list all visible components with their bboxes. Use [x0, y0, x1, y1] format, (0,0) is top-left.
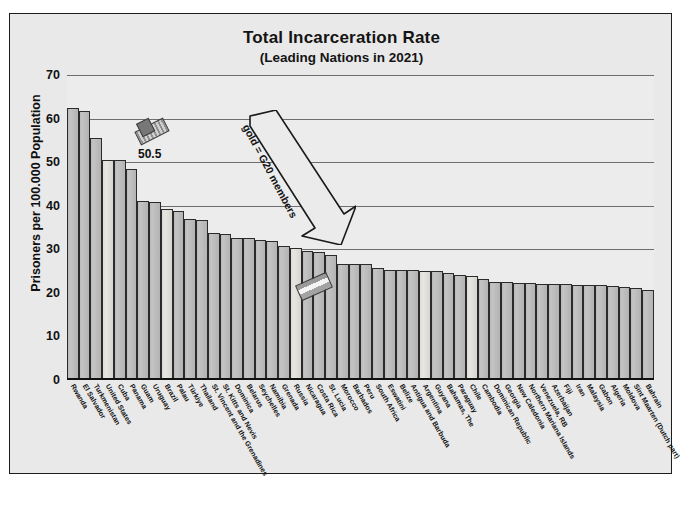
bar-slot[interactable]: [102, 75, 114, 380]
bar[interactable]: [231, 238, 243, 380]
bar[interactable]: [595, 285, 607, 380]
y-axis-tick-label: 40: [46, 199, 60, 213]
bar[interactable]: [161, 209, 173, 380]
y-axis-tick-label: 0: [53, 373, 60, 387]
bar-slot[interactable]: [79, 75, 91, 380]
bar-slot[interactable]: [114, 75, 126, 380]
data-label-united-states: 50.5: [138, 147, 161, 161]
bar-slot[interactable]: [220, 75, 232, 380]
bar-slot[interactable]: [407, 75, 419, 380]
bar[interactable]: [337, 264, 349, 380]
bar[interactable]: [173, 211, 185, 380]
bar[interactable]: [642, 290, 654, 380]
y-axis-tick-label: 10: [46, 329, 60, 343]
y-axis-tick-label: 70: [46, 68, 60, 82]
bar[interactable]: [266, 241, 278, 380]
bar-slot[interactable]: [595, 75, 607, 380]
bar[interactable]: [255, 240, 267, 380]
bar[interactable]: [196, 220, 208, 380]
bar-slot[interactable]: [489, 75, 501, 380]
x-axis-tick-labels: RwandaEl SalvadorTurkmenistanUnited Stat…: [67, 382, 654, 512]
bar-slot[interactable]: [419, 75, 431, 380]
chart-title-block: Total Incarceration Rate (Leading Nation…: [10, 28, 673, 65]
bar[interactable]: [560, 284, 572, 380]
bar-slot[interactable]: [619, 75, 631, 380]
bar-slot[interactable]: [196, 75, 208, 380]
bar-slot[interactable]: [583, 75, 595, 380]
bar-slot[interactable]: [466, 75, 478, 380]
bar[interactable]: [360, 264, 372, 380]
bar[interactable]: [149, 202, 161, 380]
bar[interactable]: [372, 268, 384, 380]
bar-slot[interactable]: [372, 75, 384, 380]
bar[interactable]: [243, 238, 255, 380]
bar[interactable]: [220, 234, 232, 380]
bar[interactable]: [102, 160, 114, 380]
bar[interactable]: [137, 201, 149, 380]
bar-slot[interactable]: [384, 75, 396, 380]
bar-slot[interactable]: [396, 75, 408, 380]
bar[interactable]: [513, 283, 525, 380]
bar-slot[interactable]: [184, 75, 196, 380]
bar-slot[interactable]: [642, 75, 654, 380]
bar-slot[interactable]: [208, 75, 220, 380]
bar[interactable]: [619, 287, 631, 380]
bar-slot[interactable]: [478, 75, 490, 380]
bar[interactable]: [79, 111, 91, 380]
bar-slot[interactable]: [630, 75, 642, 380]
x-axis-tick-label: Iran: [573, 383, 586, 398]
bar-slot[interactable]: [513, 75, 525, 380]
bar[interactable]: [572, 285, 584, 380]
bar[interactable]: [630, 288, 642, 380]
bar-slot[interactable]: [126, 75, 138, 380]
bar-slot[interactable]: [501, 75, 513, 380]
page-title: Total Incarceration Rate: [10, 28, 673, 48]
bar[interactable]: [126, 169, 138, 380]
g20-arrow-icon: [246, 110, 356, 245]
bar[interactable]: [114, 160, 126, 380]
bar[interactable]: [489, 282, 501, 380]
bar-slot[interactable]: [454, 75, 466, 380]
bar[interactable]: [90, 138, 102, 380]
bar-slot[interactable]: [572, 75, 584, 380]
bar[interactable]: [583, 285, 595, 380]
bar[interactable]: [431, 271, 443, 380]
bar[interactable]: [525, 283, 537, 380]
bar[interactable]: [501, 282, 513, 380]
bar-slot[interactable]: [431, 75, 443, 380]
bar-slot[interactable]: [443, 75, 455, 380]
bar[interactable]: [454, 275, 466, 380]
bar[interactable]: [278, 246, 290, 380]
bar[interactable]: [208, 233, 220, 380]
bar-slot[interactable]: [607, 75, 619, 380]
bar[interactable]: [349, 264, 361, 380]
bar[interactable]: [478, 279, 490, 380]
bar[interactable]: [67, 108, 79, 380]
chart-frame: Total Incarceration Rate (Leading Nation…: [9, 13, 672, 474]
bar-slot[interactable]: [173, 75, 185, 380]
bar[interactable]: [396, 270, 408, 380]
bar[interactable]: [419, 271, 431, 380]
bar[interactable]: [290, 248, 302, 380]
bar[interactable]: [607, 286, 619, 380]
y-axis-tick-label: 20: [46, 286, 60, 300]
bar-slot[interactable]: [90, 75, 102, 380]
bar[interactable]: [302, 251, 314, 380]
bar-slot[interactable]: [525, 75, 537, 380]
bar-slot[interactable]: [67, 75, 79, 380]
bar-slot[interactable]: [360, 75, 372, 380]
bar[interactable]: [384, 270, 396, 380]
y-axis-tick-label: 30: [46, 242, 60, 256]
chart-subtitle: (Leading Nations in 2021): [10, 50, 673, 65]
bar[interactable]: [466, 276, 478, 380]
bar[interactable]: [184, 219, 196, 380]
bar[interactable]: [313, 252, 325, 380]
bar-slot[interactable]: [548, 75, 560, 380]
bar[interactable]: [443, 273, 455, 380]
bar[interactable]: [536, 284, 548, 380]
bar-slot[interactable]: [231, 75, 243, 380]
bar[interactable]: [407, 270, 419, 380]
bar[interactable]: [548, 284, 560, 380]
bar-slot[interactable]: [560, 75, 572, 380]
bar-slot[interactable]: [536, 75, 548, 380]
